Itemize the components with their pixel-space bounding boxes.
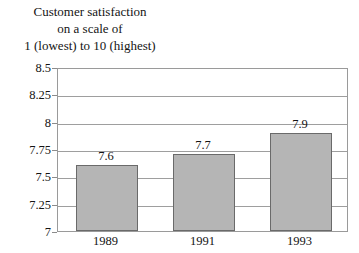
bar-1989[interactable]: [76, 165, 138, 231]
bar-value-label: 7.9: [269, 118, 331, 131]
chart-title: Customer satisfaction on a scale of 1 (l…: [0, 3, 180, 54]
gridline: [58, 96, 347, 97]
y-axis-tick-label: 7.75: [0, 144, 51, 156]
x-axis-category-label: 1991: [154, 234, 251, 248]
chart-title-line-2: on a scale of: [0, 20, 180, 37]
bar-1991[interactable]: [173, 154, 235, 231]
chart-title-line-3: 1 (lowest) to 10 (highest): [0, 37, 180, 54]
bar-1993[interactable]: [270, 133, 332, 231]
y-axis-tick-label: 7.25: [0, 199, 51, 211]
y-axis-tick-label: 8.25: [0, 89, 51, 101]
y-axis-tick-label: 8: [0, 117, 51, 129]
y-axis-tick-mark: [52, 232, 57, 233]
y-axis-tick-label: 7: [0, 226, 51, 238]
bar-value-label: 7.7: [172, 139, 234, 152]
y-axis-tick-label: 8.5: [0, 62, 51, 74]
chart-title-line-1: Customer satisfaction: [0, 3, 180, 20]
x-axis-category-label: 1993: [251, 234, 348, 248]
bar-value-label: 7.6: [75, 150, 137, 163]
x-axis-category-label: 1989: [57, 234, 154, 248]
y-axis-tick-label: 7.5: [0, 171, 51, 183]
